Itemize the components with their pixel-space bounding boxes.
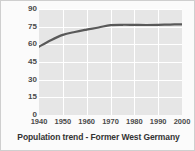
y-tick-label: 15 — [15, 93, 37, 101]
chart-figure: Population (millions) 0153045607590 1940… — [0, 0, 195, 151]
y-tick-label: 45 — [15, 58, 37, 66]
data-line-svg — [39, 9, 182, 115]
y-axis-tick-labels: 0153045607590 — [15, 9, 37, 115]
population-trend-line — [39, 24, 182, 46]
chart-title: Population trend - Former West Germany — [1, 132, 195, 142]
y-tick-label: 30 — [15, 76, 37, 84]
plot-area — [39, 9, 182, 115]
x-tick-label: 2000 — [168, 117, 195, 127]
y-tick-label: 75 — [15, 23, 37, 31]
x-axis-tick-labels: 1940195019601970198019902000 — [39, 117, 182, 128]
y-tick-label: 90 — [15, 5, 37, 13]
y-tick-label: 60 — [15, 40, 37, 48]
